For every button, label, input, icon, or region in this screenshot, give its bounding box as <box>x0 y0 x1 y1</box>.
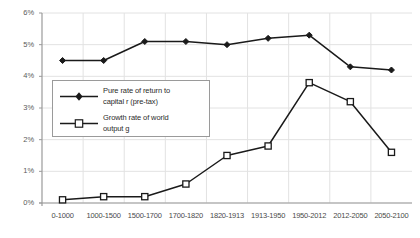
legend-entry-growth-rate: Growth rate of world output g <box>53 109 209 137</box>
data-point-r-4 <box>224 42 230 48</box>
data-point-g-4 <box>224 152 230 158</box>
chart-container: 0%1%2%3%4%5%6% 0-10001000-15001500-17001… <box>0 0 420 238</box>
y-tick-label: 3% <box>8 104 34 112</box>
data-point-g-6 <box>306 80 312 86</box>
y-tick-label: 6% <box>8 9 34 17</box>
legend-label-line2: output g <box>103 124 129 133</box>
data-point-r-8 <box>388 67 394 73</box>
legend-label-line1: Growth rate of world <box>103 113 169 122</box>
y-tick-label: 0% <box>8 199 34 207</box>
data-point-g-7 <box>347 99 353 105</box>
data-point-r-5 <box>265 35 271 41</box>
legend-label-line1: Pure rate of return to <box>103 86 170 95</box>
data-point-g-8 <box>388 149 394 155</box>
data-point-g-3 <box>183 181 189 187</box>
y-tick-label: 4% <box>8 72 34 80</box>
data-point-r-0 <box>60 58 66 64</box>
chart-legend: Pure rate of return to capital r (pre-ta… <box>52 80 210 137</box>
x-tick-label: 2050-2100 <box>365 211 417 220</box>
legend-entry-rate-of-return: Pure rate of return to capital r (pre-ta… <box>53 82 209 110</box>
data-point-r-1 <box>101 58 107 64</box>
y-tick-label: 5% <box>8 41 34 49</box>
data-point-g-2 <box>142 194 148 200</box>
data-point-g-1 <box>101 194 107 200</box>
legend-label-growth-rate: Growth rate of world output g <box>103 112 207 134</box>
legend-marker-filled-diamond <box>59 91 99 102</box>
data-point-r-2 <box>142 39 148 45</box>
legend-label-rate-of-return: Pure rate of return to capital r (pre-ta… <box>103 85 207 107</box>
legend-marker-open-square <box>59 118 99 129</box>
data-point-g-5 <box>265 143 271 149</box>
data-point-g-0 <box>59 197 65 203</box>
series-line-rate-of-return <box>63 35 392 70</box>
y-tick-label: 2% <box>8 136 34 144</box>
data-point-r-3 <box>183 39 189 45</box>
y-tick-label: 1% <box>8 167 34 175</box>
legend-label-line2: capital r (pre-tax) <box>103 97 158 106</box>
